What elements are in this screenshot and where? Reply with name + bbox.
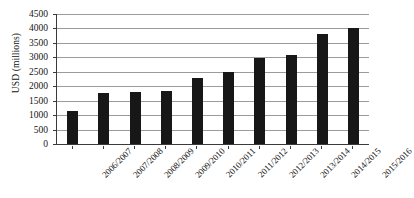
x-axis-tick-label: 2013/2014 [318, 146, 352, 180]
x-axis-tick-mark [134, 146, 135, 149]
x-axis-tick-mark [352, 146, 353, 149]
y-axis-tick-label: 1000 [29, 110, 48, 120]
y-axis-tick-label: 2000 [29, 81, 48, 91]
x-axis-tick-label: 2006/2007 [100, 146, 134, 180]
x-axis-tick-mark [290, 146, 291, 149]
y-axis-tick-label: 4000 [29, 23, 48, 33]
plot-area [56, 14, 369, 144]
x-axis-tick-label: 2008/2009 [162, 146, 196, 180]
y-axis-tick-labels: 050010001500200025003000350040004500 [0, 0, 52, 198]
bar[interactable] [67, 111, 78, 144]
y-axis-tick-label: 0 [43, 139, 48, 149]
x-axis-tick-label: 2010/2011 [224, 146, 257, 179]
x-axis-tick-mark [259, 146, 260, 149]
y-axis-tick-label: 500 [34, 125, 48, 135]
x-axis-tick-mark [321, 146, 322, 149]
gridline [57, 144, 369, 145]
y-axis-tick-mark [53, 144, 57, 145]
x-axis-tick-label: 2015/2016 [380, 146, 414, 180]
x-axis-tick-label: 2007/2008 [131, 146, 165, 180]
bar[interactable] [286, 55, 297, 144]
x-axis-tick-label: 2011/2012 [256, 146, 289, 179]
bar[interactable] [223, 72, 234, 144]
y-axis-tick-label: 4500 [29, 9, 48, 19]
bar[interactable] [161, 91, 172, 144]
x-axis-tick-mark [72, 146, 73, 149]
x-axis-tick-labels: 2006/20072007/20082008/20092009/20102010… [56, 146, 368, 198]
bar[interactable] [98, 93, 109, 144]
x-axis-tick-mark [196, 146, 197, 149]
y-axis-tick-label: 2500 [29, 67, 48, 77]
bar[interactable] [254, 58, 265, 144]
x-axis-tick-mark [103, 146, 104, 149]
bar[interactable] [348, 28, 359, 144]
y-axis-tick-label: 3500 [29, 38, 48, 48]
x-axis-tick-mark [165, 146, 166, 149]
x-axis-tick-label: 2012/2013 [287, 146, 321, 180]
bar[interactable] [317, 34, 328, 144]
y-axis-tick-label: 1500 [29, 96, 48, 106]
x-axis-tick-mark [228, 146, 229, 149]
x-axis-tick-label: 2014/2015 [349, 146, 383, 180]
y-axis-tick-label: 3000 [29, 52, 48, 62]
bar[interactable] [192, 78, 203, 144]
bar[interactable] [130, 92, 141, 144]
x-axis-tick-label: 2009/2010 [193, 146, 227, 180]
bars-group [57, 14, 369, 144]
